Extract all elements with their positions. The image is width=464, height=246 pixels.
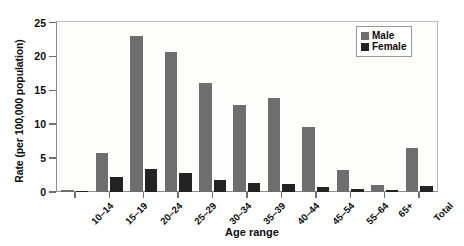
y-axis-tick-label: 0 [16, 186, 46, 198]
y-axis-tick-label: 5 [16, 152, 46, 164]
y-axis-tick [49, 90, 56, 92]
bar-male-25–29 [165, 52, 178, 192]
x-axis-tick [315, 192, 317, 198]
bar-female-20–24 [145, 169, 158, 192]
x-axis-tick [212, 192, 214, 198]
x-axis-tick-label: Total [432, 200, 455, 223]
bar-male-55–64 [337, 170, 350, 192]
bar-female-25–29 [179, 173, 192, 192]
bar-male-20–24 [130, 36, 143, 192]
bar-male-45–54 [302, 127, 315, 192]
bar-female-65+ [386, 190, 399, 192]
legend-label-male: Male [372, 31, 394, 41]
x-axis-tick [418, 192, 420, 198]
x-axis-tick-label: 10–14 [89, 200, 116, 227]
x-axis-tick-label: 40–44 [295, 200, 322, 227]
bar-female-30–34 [214, 180, 227, 192]
x-axis-tick [109, 192, 111, 198]
legend: Male Female [356, 26, 412, 57]
bar-female-40–44 [282, 184, 295, 192]
x-axis-tick [143, 192, 145, 198]
bar-male-10–14 [61, 190, 74, 192]
x-axis-tick-label: 15–19 [123, 200, 150, 227]
x-axis-tick-label: 20–24 [158, 200, 185, 227]
y-axis-tick-label: 15 [16, 84, 46, 96]
legend-item-female: Female [361, 42, 406, 52]
legend-swatch-male-icon [361, 32, 369, 40]
x-axis-tick [74, 192, 76, 198]
legend-item-male: Male [361, 31, 406, 41]
bar-female-Total [420, 186, 433, 192]
x-axis-tick [384, 192, 386, 198]
y-axis-tick [49, 22, 56, 24]
bar-male-Total [406, 148, 419, 192]
x-axis-tick-label: 25–29 [192, 200, 219, 227]
y-axis-tick-label: 25 [16, 17, 46, 29]
y-axis-tick [49, 56, 56, 58]
bar-female-55–64 [351, 189, 364, 192]
bar-male-30–34 [199, 83, 212, 192]
bar-female-10–14 [76, 191, 89, 192]
x-axis-tick-label: 30–34 [226, 200, 253, 227]
x-axis-tick [246, 192, 248, 198]
bar-male-65+ [371, 185, 384, 192]
bar-male-15–19 [96, 153, 109, 192]
bar-female-15–19 [110, 177, 123, 192]
x-axis-tick-label: 45–54 [330, 200, 357, 227]
bar-female-45–54 [317, 187, 330, 192]
y-axis-tick [49, 123, 56, 125]
y-axis-title: Rate (per 100,000 population) [13, 16, 25, 206]
legend-swatch-female-icon [361, 43, 369, 51]
x-axis-tick-label: 65+ [396, 200, 415, 219]
bar-male-40–44 [268, 98, 281, 192]
x-axis-tick [177, 192, 179, 198]
x-axis-tick-label: 55–64 [364, 200, 391, 227]
legend-label-female: Female [372, 42, 406, 52]
y-axis-tick [49, 191, 56, 193]
bar-chart: Rate (per 100,000 population) 0510152025… [0, 0, 464, 246]
bar-female-35–39 [248, 183, 261, 192]
x-axis-title: Age range [0, 226, 464, 238]
x-axis-tick-label: 35–39 [261, 200, 288, 227]
y-axis-tick-label: 20 [16, 50, 46, 62]
x-axis-tick [350, 192, 352, 198]
bar-male-35–39 [233, 105, 246, 192]
y-axis-tick [49, 157, 56, 159]
x-axis-tick [281, 192, 283, 198]
y-axis-tick-label: 10 [16, 118, 46, 130]
